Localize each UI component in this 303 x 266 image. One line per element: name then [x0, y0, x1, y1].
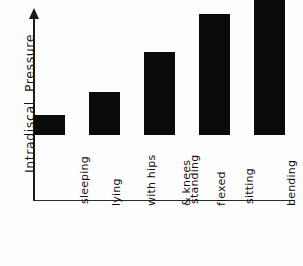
tick-line: sitting	[244, 142, 256, 204]
x-tick-label-standing: standing	[166, 142, 182, 204]
tick-line: standing	[189, 142, 201, 204]
tick-line: with hips	[146, 148, 158, 206]
bar-chart-figure: Intradiscal Pressure sleeping lying with…	[0, 0, 303, 266]
x-tick-label-lying-hips-knees-flexed: lying with hips & knees flexed	[88, 148, 104, 206]
bar-sitting	[199, 14, 230, 135]
tick-line: bending	[286, 148, 298, 206]
bar-standing	[144, 52, 175, 135]
x-tick-label-sitting: sitting	[221, 142, 237, 204]
x-tick-label-bending-lifting: bending & lifting	[263, 148, 279, 206]
tick-line: lying	[111, 148, 123, 206]
bar-sleeping	[34, 115, 65, 135]
bar-bending-lifting	[254, 0, 285, 135]
x-tick-label-sleeping: sleeping	[56, 142, 72, 204]
bar-lying-hips-knees-flexed	[89, 92, 120, 135]
